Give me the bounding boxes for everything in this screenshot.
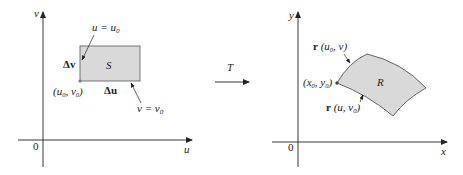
origin-label-left: 0 — [33, 140, 39, 152]
line-v-label: v = v0 — [137, 102, 164, 116]
v-axis-label: v — [34, 7, 39, 19]
uv-plane: v u 0 S u = u0 Δv Δu (u0, v0) v = v0 — [18, 7, 192, 167]
corner-point-label: (u0, v0) — [53, 85, 83, 98]
curve-bottom-pointer — [360, 95, 363, 102]
curve-top-label: r (u0, v) — [313, 40, 347, 53]
x-axis-label: x — [440, 145, 446, 157]
transform-arrow: T — [215, 61, 249, 82]
y-axis-label: y — [288, 9, 294, 21]
xy-plane: y x 0 R r (u0, v) (x0, y0) r (u, v0) — [272, 9, 447, 167]
point-label: (x0, y0) — [303, 76, 332, 89]
line-u-label: u = u0 — [92, 21, 120, 35]
curve-bottom-label: r (u, v0) — [326, 101, 360, 114]
corner-point-uv — [79, 80, 82, 83]
delta-u-label: Δu — [104, 84, 117, 96]
line-v-pointer — [131, 83, 141, 103]
point-x0y0 — [335, 81, 338, 84]
delta-v-label: Δv — [63, 58, 76, 70]
change-of-variables-diagram: v u 0 S u = u0 Δv Δu (u0, v0) v = v0 T y — [0, 0, 463, 175]
transform-label: T — [227, 61, 234, 73]
region-s-label: S — [106, 59, 112, 71]
origin-label-right: 0 — [288, 141, 294, 153]
u-axis-label: u — [184, 143, 190, 155]
curve-top-pointer — [344, 54, 350, 63]
region-r-label: R — [376, 76, 384, 88]
